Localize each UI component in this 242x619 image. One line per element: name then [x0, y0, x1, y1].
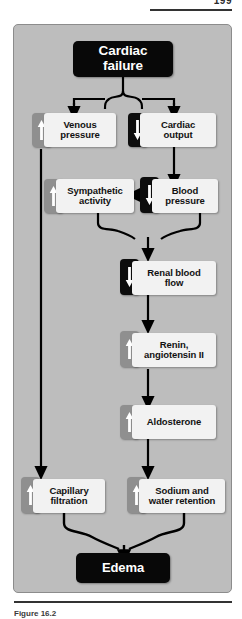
node-edema: Edema	[76, 553, 170, 583]
node-blood-pressure: Blood pressure	[152, 179, 218, 213]
node-venous-pressure-line2: pressure	[60, 130, 99, 140]
node-cardiac-output-line2: output	[161, 130, 195, 140]
node-sympathetic-activity: Sympathetic activity	[56, 179, 134, 213]
node-cardiac-failure: Cardiac failure	[73, 41, 173, 77]
page-number: 199	[214, 0, 232, 6]
node-sodium-water-retention-line2: water retention	[149, 496, 216, 506]
figure-caption: Figure 16.2	[14, 608, 232, 619]
node-renin-angiotensin-line2: angiotensin II	[144, 350, 204, 360]
node-sodium-water-retention: Sodium and water retention	[139, 479, 225, 513]
node-cardiac-output: Cardiac output	[140, 113, 216, 147]
node-edema-line1: Edema	[102, 561, 144, 575]
diagram-panel: Cardiac failure Venous pressure Cardiac …	[13, 24, 232, 593]
node-renin-angiotensin: Renin, angiotensin II	[132, 333, 216, 367]
node-venous-pressure: Venous pressure	[44, 113, 116, 147]
node-blood-pressure-line2: pressure	[165, 196, 204, 206]
node-aldosterone: Aldosterone	[132, 405, 216, 439]
node-sympathetic-activity-line2: activity	[67, 196, 122, 206]
node-aldosterone-line1: Aldosterone	[147, 417, 201, 427]
node-cardiac-failure-line2: failure	[99, 59, 148, 74]
node-capillary-filtration: Capillary filtration	[33, 479, 105, 513]
node-renal-blood-flow: Renal blood flow	[132, 261, 216, 295]
header-rule	[150, 9, 232, 11]
node-cardiac-failure-line1: Cardiac	[99, 44, 148, 59]
node-capillary-filtration-line2: filtration	[49, 496, 88, 506]
footer-rule	[14, 601, 232, 603]
node-renal-blood-flow-line2: flow	[147, 278, 200, 288]
